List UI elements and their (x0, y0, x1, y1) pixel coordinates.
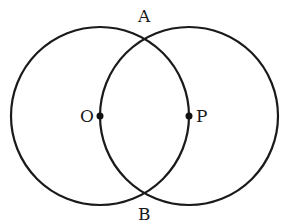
label-b: B (138, 204, 151, 224)
label-o: O (80, 106, 94, 126)
label-p: P (196, 106, 207, 126)
intersecting-circles-diagram: O P A B (0, 0, 282, 224)
point-p-dot (186, 113, 193, 120)
point-o-dot (97, 113, 104, 120)
label-a: A (137, 6, 151, 26)
